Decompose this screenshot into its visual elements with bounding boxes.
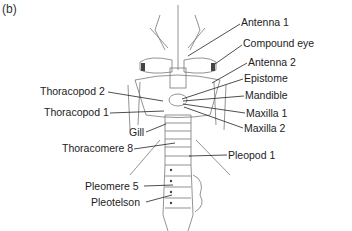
label-gill: Gill: [129, 127, 144, 138]
label-pleomere-5: Pleomere 5: [85, 181, 139, 192]
label-maxilla-1: Maxilla 1: [246, 108, 287, 119]
label-epistome: Epistome: [244, 73, 288, 84]
label-thoracopod-1: Thoracopod 1: [44, 107, 109, 118]
label-thoracomere-8: Thoracomere 8: [62, 143, 133, 154]
label-antenna-1: Antenna 1: [241, 17, 289, 28]
label-compound-eye: Compound eye: [243, 38, 314, 49]
label-mandible: Mandible: [245, 90, 288, 101]
label-pleotelson: Pleotelson: [91, 197, 140, 208]
label-pleopod-1: Pleopod 1: [228, 150, 275, 161]
label-thoracopod-2: Thoracopod 2: [40, 86, 105, 97]
label-maxilla-2: Maxilla 2: [244, 123, 285, 134]
label-antenna-2: Antenna 2: [248, 57, 296, 68]
